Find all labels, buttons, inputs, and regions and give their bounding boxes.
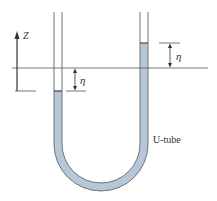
u-tube-outer-wall — [54, 12, 148, 191]
z-axis-arrowhead-icon — [15, 31, 20, 39]
u-tube-inner-wall — [62, 12, 140, 183]
u-tube-label: U-tube — [153, 134, 181, 145]
fluid-fill — [54, 43, 148, 191]
left-eta-label: η — [80, 74, 85, 86]
right-eta-arrow-down-icon — [168, 63, 172, 68]
u-tube-diagram: Z η η U-tube — [0, 0, 217, 201]
z-axis-label: Z — [23, 30, 29, 41]
left-eta-arrow-up-icon — [73, 69, 77, 74]
right-eta-label: η — [176, 50, 181, 62]
right-eta-arrow-up-icon — [168, 44, 172, 49]
left-eta-arrow-down-icon — [73, 86, 77, 91]
